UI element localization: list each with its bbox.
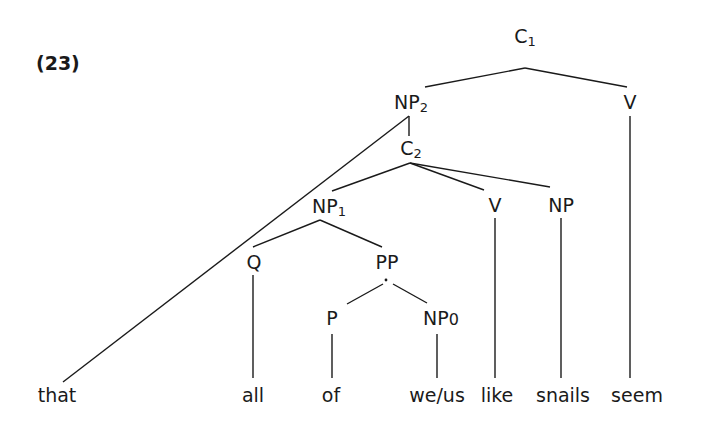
branch-c2-np1: [332, 163, 410, 191]
branch-c1-np2: [425, 68, 525, 87]
word-of: of: [322, 386, 340, 405]
tree-branches: [0, 0, 704, 428]
node-np0: NP0: [423, 309, 459, 328]
branch-c1-v: [525, 68, 627, 87]
node-np1: NP1: [312, 197, 346, 218]
word-snails: snails: [536, 386, 590, 405]
pp-dot: [385, 279, 388, 282]
word-we-us: we/us: [409, 386, 465, 405]
branch-np2-that: [63, 116, 409, 382]
node-np2: NP2: [394, 93, 428, 114]
branch-pp-p: [347, 284, 383, 304]
branch-np1-q: [253, 220, 320, 247]
node-np-mid: NP: [548, 196, 574, 215]
branch-c2-np: [410, 163, 550, 187]
node-pp: PP: [376, 253, 399, 272]
branch-pp-np0: [393, 284, 427, 303]
node-v-top: V: [624, 93, 637, 112]
word-all: all: [242, 386, 264, 405]
word-that: that: [38, 386, 77, 405]
node-c2: C2: [400, 139, 422, 160]
branch-np1-pp: [320, 220, 382, 247]
word-seem: seem: [611, 386, 663, 405]
node-v-mid: V: [489, 196, 502, 215]
branch-c2-v: [410, 163, 484, 190]
word-like: like: [481, 386, 514, 405]
node-c1: C1: [514, 27, 536, 48]
node-q: Q: [247, 253, 262, 272]
node-p: P: [326, 309, 337, 328]
